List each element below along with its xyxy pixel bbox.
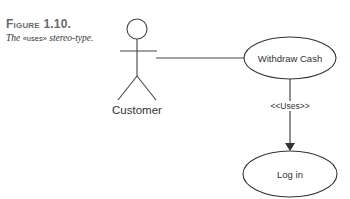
- actor-head-icon: [127, 19, 147, 39]
- actor-label: Customer: [112, 104, 162, 116]
- actor-left-leg: [118, 76, 137, 100]
- uses-label: <<Uses>>: [270, 101, 309, 111]
- use-case-label-withdraw-cash: Withdraw Cash: [258, 53, 322, 64]
- actor-customer: [118, 19, 157, 100]
- use-case-diagram: Customer Withdraw Cash <<Uses>> Log in: [0, 0, 350, 199]
- actor-right-leg: [137, 76, 156, 100]
- use-case-label-log-in: Log in: [277, 169, 303, 180]
